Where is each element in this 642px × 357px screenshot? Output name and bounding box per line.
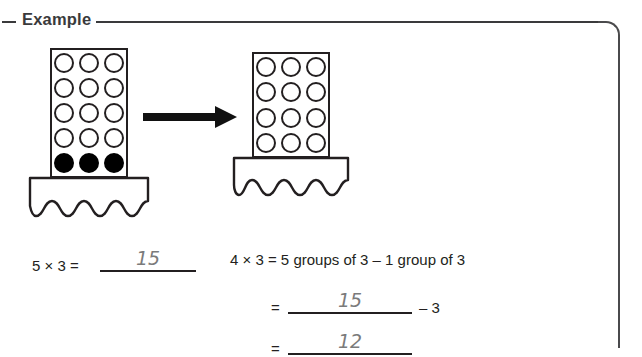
- left-bead-grid: [52, 50, 126, 176]
- bead-filled: [104, 153, 124, 173]
- bead-open: [306, 82, 326, 102]
- bead-open: [306, 57, 326, 77]
- left-equation-prompt: 5 × 3 =: [32, 258, 79, 273]
- bead-open: [281, 108, 301, 128]
- right-counter-apparatus: [232, 52, 350, 197]
- bead-open: [54, 53, 74, 73]
- right-equation-line2-answer: 15: [288, 291, 412, 310]
- bead-open: [256, 133, 276, 153]
- bead-filled: [79, 153, 99, 173]
- right-equation-line2-answer-rule: [288, 312, 412, 314]
- bead-open: [104, 128, 124, 148]
- example-box-right-border: [618, 41, 620, 348]
- right-counter-base: [232, 156, 350, 200]
- bead-open: [54, 128, 74, 148]
- right-equation-line3-answer: 12: [288, 332, 412, 351]
- left-counter-base: [28, 176, 150, 221]
- right-bead-grid: [254, 54, 328, 156]
- bead-open: [79, 78, 99, 98]
- right-equation-line1: 4 × 3 = 5 groups of 3 – 1 group of 3: [230, 252, 465, 267]
- right-equation-line3-prefix: =: [271, 341, 280, 356]
- bead-open: [256, 82, 276, 102]
- bead-open: [306, 133, 326, 153]
- example-header-band: Example: [0, 0, 642, 30]
- bead-open: [54, 78, 74, 98]
- bead-open: [54, 103, 74, 123]
- bead-open: [104, 103, 124, 123]
- example-box-corner: [598, 21, 620, 43]
- header-rule: [96, 21, 606, 23]
- transformation-arrow: [143, 104, 238, 130]
- bead-open: [256, 108, 276, 128]
- bead-open: [281, 82, 301, 102]
- right-equation-line3-answer-rule: [288, 353, 412, 355]
- bead-open: [104, 53, 124, 73]
- left-equation-answer-slot[interactable]: 15: [100, 234, 196, 272]
- header-dash-left: [2, 21, 16, 23]
- left-equation-answer-rule: [100, 270, 196, 272]
- right-equation-line2-suffix: – 3: [419, 300, 440, 315]
- bead-open: [79, 103, 99, 123]
- bead-open: [79, 53, 99, 73]
- bead-open: [79, 128, 99, 148]
- left-equation-answer: 15: [100, 249, 196, 268]
- right-equation-line3-answer-slot[interactable]: 12: [288, 323, 412, 355]
- page-title: Example: [22, 10, 91, 29]
- bead-open: [104, 78, 124, 98]
- bead-open: [281, 57, 301, 77]
- bead-filled: [54, 153, 74, 173]
- bead-open: [256, 57, 276, 77]
- right-equation-line2-answer-slot[interactable]: 15: [288, 282, 412, 314]
- right-equation-line2-prefix: =: [271, 300, 280, 315]
- bead-open: [281, 133, 301, 153]
- bead-open: [306, 108, 326, 128]
- left-counter-apparatus: [28, 48, 148, 218]
